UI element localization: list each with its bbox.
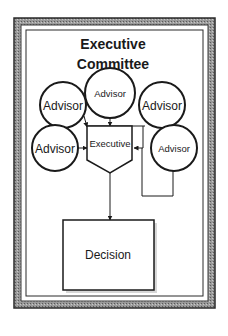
decision-node: Decision: [63, 220, 157, 293]
advisor-left-top: Advisor: [40, 82, 86, 128]
svg-text:Advisor: Advisor: [142, 99, 182, 113]
committee-title-line1: Executive: [80, 36, 146, 52]
svg-text:Executive: Executive: [89, 138, 130, 149]
svg-text:Advisor: Advisor: [94, 88, 126, 99]
executive-committee-diagram: Executive Committee Advisor Advisor Advi…: [0, 0, 228, 336]
advisor-left-mid: Advisor: [32, 125, 78, 171]
advisor-right-mid: Advisor: [151, 125, 197, 171]
advisor-top: Advisor: [85, 68, 135, 118]
svg-text:Advisor: Advisor: [43, 99, 83, 113]
advisor-right-top: Advisor: [139, 82, 185, 128]
svg-text:Advisor: Advisor: [158, 143, 190, 154]
svg-text:Advisor: Advisor: [35, 142, 75, 156]
svg-text:Decision: Decision: [85, 248, 131, 262]
